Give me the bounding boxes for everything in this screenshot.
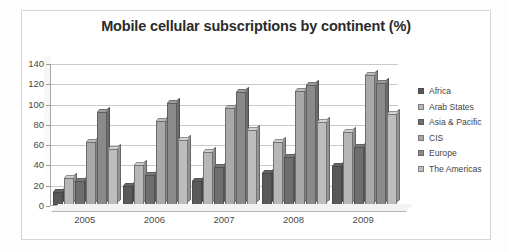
bar-face bbox=[295, 91, 305, 205]
bar-group bbox=[51, 63, 121, 205]
y-tick-mark bbox=[46, 84, 50, 85]
bar bbox=[178, 140, 188, 205]
chart-legend: AfricaArab StatesAsia & PacificCISEurope… bbox=[418, 86, 498, 179]
bar bbox=[192, 181, 202, 205]
bar-group bbox=[121, 63, 191, 205]
legend-item[interactable]: Europe bbox=[418, 148, 498, 158]
bar-face bbox=[64, 178, 74, 205]
bar bbox=[123, 186, 133, 205]
bar bbox=[225, 108, 235, 205]
plot-canvas bbox=[50, 64, 398, 206]
x-tick-label: 2008 bbox=[259, 214, 329, 230]
bar bbox=[236, 92, 246, 205]
legend-swatch-icon bbox=[418, 88, 424, 94]
y-tick-mark bbox=[46, 165, 50, 166]
x-tick-label: 2005 bbox=[50, 214, 120, 230]
legend-item[interactable]: Asia & Pacific bbox=[418, 117, 498, 127]
bar-face bbox=[203, 152, 213, 205]
x-tick-label: 2007 bbox=[189, 214, 259, 230]
legend-swatch-icon bbox=[418, 119, 424, 125]
bar-face bbox=[123, 186, 133, 205]
bar-face bbox=[134, 165, 144, 205]
bar-face bbox=[214, 167, 224, 205]
bar-face bbox=[376, 83, 386, 205]
bar-face bbox=[236, 92, 246, 205]
bar-face bbox=[167, 103, 177, 205]
legend-swatch-icon bbox=[418, 166, 424, 172]
bar bbox=[75, 181, 85, 205]
bar bbox=[317, 122, 327, 205]
bar-group bbox=[329, 63, 399, 205]
bar-groups bbox=[51, 63, 399, 205]
bar-face bbox=[317, 122, 327, 205]
legend-item[interactable]: CIS bbox=[418, 133, 498, 143]
bar-face bbox=[75, 181, 85, 205]
chart-screenshot: Mobile cellular subscriptions by contine… bbox=[0, 0, 510, 252]
bar bbox=[262, 173, 272, 205]
legend-item[interactable]: Africa bbox=[418, 86, 498, 96]
bar-face bbox=[247, 130, 257, 205]
bar bbox=[295, 91, 305, 205]
bar-face bbox=[156, 121, 166, 205]
bar bbox=[284, 157, 294, 205]
y-tick-mark bbox=[46, 186, 50, 187]
y-tick-label: 80 bbox=[14, 119, 44, 130]
legend-swatch-icon bbox=[418, 150, 424, 156]
legend-label: CIS bbox=[429, 133, 443, 143]
bar-group bbox=[260, 63, 330, 205]
bar-face bbox=[332, 166, 342, 205]
bar bbox=[387, 114, 397, 205]
x-axis-labels: 20052006200720082009 bbox=[50, 214, 398, 230]
bar-face bbox=[306, 85, 316, 205]
bar-face bbox=[365, 75, 375, 205]
bar-face bbox=[343, 132, 353, 205]
y-tick-mark bbox=[46, 145, 50, 146]
legend-item[interactable]: The Americas bbox=[418, 164, 498, 174]
bar-group bbox=[190, 63, 260, 205]
bar-face bbox=[284, 157, 294, 205]
bar bbox=[343, 132, 353, 205]
bar-side bbox=[397, 108, 400, 202]
bar bbox=[376, 83, 386, 205]
y-tick-label: 120 bbox=[14, 78, 44, 89]
plot-area: 020406080100120140 bbox=[50, 64, 398, 206]
legend-label: The Americas bbox=[429, 164, 482, 174]
y-tick-label: 20 bbox=[14, 180, 44, 191]
bar bbox=[273, 142, 283, 205]
bar-face bbox=[387, 114, 397, 205]
y-tick-label: 40 bbox=[14, 159, 44, 170]
y-tick-label: 0 bbox=[14, 200, 44, 211]
bar-face bbox=[225, 108, 235, 205]
bar bbox=[332, 166, 342, 205]
bar bbox=[64, 178, 74, 205]
bar bbox=[134, 165, 144, 205]
legend-item[interactable]: Arab States bbox=[418, 102, 498, 112]
chart-title: Mobile cellular subscriptions by contine… bbox=[21, 18, 491, 34]
y-tick-label: 140 bbox=[14, 58, 44, 69]
bar bbox=[108, 149, 118, 205]
bar-face bbox=[97, 112, 107, 205]
y-tick-mark bbox=[46, 206, 50, 207]
bar-face bbox=[108, 149, 118, 205]
bar bbox=[306, 85, 316, 205]
bar bbox=[86, 142, 96, 205]
y-tick-mark bbox=[46, 125, 50, 126]
bar bbox=[247, 130, 257, 205]
bar-face bbox=[192, 181, 202, 205]
x-tick-label: 2006 bbox=[120, 214, 190, 230]
bar bbox=[354, 147, 364, 205]
legend-label: Asia & Pacific bbox=[429, 117, 482, 127]
legend-label: Africa bbox=[429, 86, 451, 96]
legend-swatch-icon bbox=[418, 104, 424, 110]
x-tick-label: 2009 bbox=[328, 214, 398, 230]
bar-face bbox=[86, 142, 96, 205]
y-tick-label: 100 bbox=[14, 99, 44, 110]
axis-depth-shade bbox=[44, 57, 51, 206]
legend-swatch-icon bbox=[418, 135, 424, 141]
plot-floor bbox=[51, 204, 413, 212]
y-tick-label: 60 bbox=[14, 139, 44, 150]
bar bbox=[167, 103, 177, 205]
legend-divider bbox=[490, 10, 491, 240]
bar-face bbox=[262, 173, 272, 205]
legend-label: Europe bbox=[429, 148, 457, 158]
